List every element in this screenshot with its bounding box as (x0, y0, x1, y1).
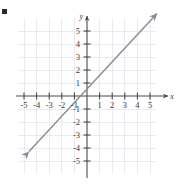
y-tick-label: -3 (73, 130, 80, 140)
y-tick-label: 5 (76, 26, 80, 36)
tick-label-layer: -5 -4 -3 -2 -1 1 2 3 4 5 5 4 3 2 1 -1 -2… (0, 0, 187, 186)
x-tick-label: 1 (97, 100, 101, 110)
x-tick-label: 3 (123, 100, 127, 110)
y-tick-label: 2 (76, 65, 80, 75)
y-tick-label: 3 (76, 52, 80, 62)
y-tick-label: -5 (73, 156, 80, 166)
y-tick-label: 4 (76, 39, 81, 49)
x-tick-label: 2 (110, 100, 114, 110)
x-tick-label: -3 (46, 100, 53, 110)
y-axis-label: y (78, 12, 83, 21)
x-tick-label: 5 (148, 100, 152, 110)
x-axis-label: x (169, 92, 174, 101)
x-tick-label: -2 (58, 100, 65, 110)
y-tick-label: -1 (73, 104, 80, 114)
y-tick-label: -2 (73, 117, 80, 127)
x-tick-label: 4 (135, 100, 140, 110)
graph-figure: -5 -4 -3 -2 -1 1 2 3 4 5 5 4 3 2 1 -1 -2… (0, 0, 187, 186)
y-tick-label: -4 (73, 143, 81, 153)
x-tick-label: -4 (33, 100, 41, 110)
x-tick-label: -5 (20, 100, 27, 110)
y-tick-label: 1 (76, 78, 80, 88)
